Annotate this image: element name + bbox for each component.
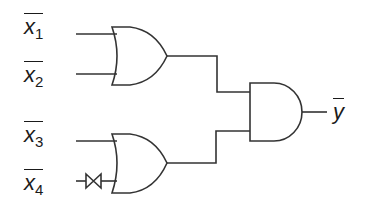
wire-or2-to-and [167, 131, 250, 163]
label-x2: x2 [24, 61, 43, 89]
label-x3: x3 [24, 121, 43, 149]
or-gate-1 [112, 27, 167, 85]
label-x4: x4 [24, 169, 43, 197]
label-output-y: y [333, 98, 344, 123]
or-gate-2 [112, 134, 167, 193]
and-gate [250, 83, 302, 141]
wire-or1-to-and [167, 56, 250, 92]
logic-circuit-diagram [0, 0, 367, 210]
transmission-gate-icon [86, 174, 101, 188]
label-x1: x1 [24, 13, 43, 41]
